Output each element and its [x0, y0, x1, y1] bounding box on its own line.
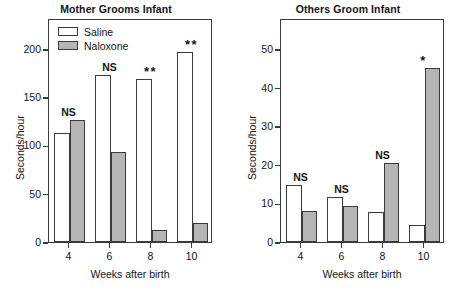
y-tick-mark — [275, 204, 280, 205]
significance-label-week-10: * — [420, 56, 427, 65]
y-axis-label: Seconds/hour — [246, 115, 258, 180]
y-tick-label: 30 — [261, 120, 273, 133]
y-tick-mark — [43, 146, 48, 147]
bar-naloxone-week-6 — [111, 152, 127, 242]
bar-saline-week-10 — [177, 52, 193, 242]
significance-label-week-4: NS — [61, 106, 76, 118]
y-tick-label: 0 — [35, 236, 41, 249]
plot-area — [281, 20, 443, 242]
y-tick-mark — [43, 49, 48, 50]
panel-title: Mother Grooms Infant — [0, 3, 232, 15]
bar-saline-week-8 — [368, 212, 384, 242]
y-tick-mark — [43, 242, 48, 243]
bar-naloxone-week-6 — [343, 206, 359, 242]
x-tick-label: 8 — [369, 250, 397, 262]
chart-panel-mother-grooms-infant: Mother Grooms Infant Seconds/hour Weeks … — [0, 0, 232, 291]
bar-saline-week-4 — [286, 185, 302, 242]
x-tick-label: 6 — [96, 250, 124, 262]
bar-naloxone-week-4 — [70, 120, 86, 242]
x-axis-label: Weeks after birth — [280, 268, 444, 280]
x-tick-label: 10 — [410, 250, 438, 262]
x-tick-mark — [68, 243, 69, 248]
significance-label-week-4: NS — [293, 171, 308, 183]
bar-naloxone-week-10 — [193, 223, 209, 242]
bar-saline-week-10 — [409, 225, 425, 242]
y-tick-mark — [43, 97, 48, 98]
significance-label-week-6: NS — [102, 61, 117, 73]
bar-saline-week-4 — [54, 133, 70, 242]
x-tick-label: 4 — [55, 250, 83, 262]
legend-item-naloxone: Naloxone — [58, 39, 128, 52]
y-tick-mark — [275, 49, 280, 50]
x-tick-mark — [382, 243, 383, 248]
bar-saline-week-6 — [95, 75, 111, 242]
x-tick-label: 6 — [328, 250, 356, 262]
x-tick-mark — [109, 243, 110, 248]
y-tick-mark — [275, 165, 280, 166]
y-tick-label: 200 — [23, 43, 41, 56]
y-tick-label: 100 — [23, 139, 41, 152]
legend-swatch-naloxone-icon — [58, 41, 78, 50]
y-tick-mark — [275, 242, 280, 243]
x-tick-label: 4 — [287, 250, 315, 262]
x-tick-mark — [341, 243, 342, 248]
y-tick-mark — [275, 88, 280, 89]
figure-root: Mother Grooms Infant Seconds/hour Weeks … — [0, 0, 464, 291]
x-tick-mark — [191, 243, 192, 248]
y-tick-label: 150 — [23, 91, 41, 104]
y-tick-label: 20 — [261, 159, 273, 172]
bar-saline-week-6 — [327, 197, 343, 242]
chart-panel-others-groom-infant: Others Groom Infant Seconds/hour Weeks a… — [232, 0, 464, 291]
panel-title: Others Groom Infant — [232, 3, 464, 15]
significance-label-week-8: ** — [144, 67, 157, 76]
bar-naloxone-week-8 — [152, 230, 168, 242]
bar-naloxone-week-4 — [302, 211, 318, 242]
significance-label-week-6: NS — [334, 183, 349, 195]
y-tick-label: 0 — [267, 236, 273, 249]
y-tick-label: 50 — [261, 43, 273, 56]
bar-naloxone-week-8 — [384, 163, 400, 242]
legend-label-saline: Saline — [84, 26, 113, 38]
legend-label-naloxone: Naloxone — [84, 40, 128, 52]
x-tick-mark — [423, 243, 424, 248]
x-tick-mark — [300, 243, 301, 248]
y-tick-mark — [43, 194, 48, 195]
significance-label-week-10: ** — [185, 40, 198, 49]
x-tick-mark — [150, 243, 151, 248]
x-axis-label: Weeks after birth — [48, 268, 212, 280]
bar-saline-week-8 — [136, 79, 152, 242]
legend-swatch-saline-icon — [58, 27, 78, 36]
y-tick-label: 50 — [29, 188, 41, 201]
x-tick-label: 10 — [178, 250, 206, 262]
y-tick-mark — [275, 126, 280, 127]
bar-naloxone-week-10 — [425, 68, 441, 242]
legend: Saline Naloxone — [58, 25, 128, 53]
significance-label-week-8: NS — [375, 149, 390, 161]
legend-item-saline: Saline — [58, 25, 128, 38]
plot-area — [49, 20, 211, 242]
y-tick-label: 40 — [261, 82, 273, 95]
y-tick-label: 10 — [261, 197, 273, 210]
x-tick-label: 8 — [137, 250, 165, 262]
